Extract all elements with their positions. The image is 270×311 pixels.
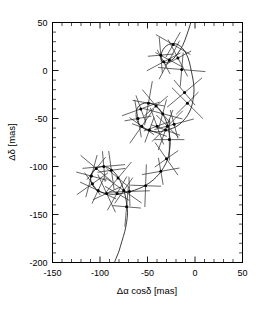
data-point bbox=[97, 189, 100, 192]
data-point bbox=[140, 125, 143, 128]
y-tick-label: 0 bbox=[42, 66, 47, 76]
data-point bbox=[90, 175, 93, 178]
data-point bbox=[156, 125, 159, 128]
data-point bbox=[168, 138, 171, 141]
x-tick-label: -100 bbox=[91, 268, 109, 278]
data-point bbox=[128, 190, 131, 193]
y-axis-title: Δδ [mas] bbox=[6, 123, 17, 161]
data-point bbox=[162, 60, 165, 63]
data-point bbox=[176, 57, 179, 60]
data-point bbox=[102, 165, 105, 168]
y-tick-labels: 500-50-100-150-200 bbox=[29, 18, 47, 268]
x-tick-label: -150 bbox=[43, 268, 61, 278]
x-tick-label: 50 bbox=[237, 268, 247, 278]
plot-canvas: -150-100-50050 500-50-100-150-200 Δα cos… bbox=[0, 0, 270, 311]
data-point bbox=[172, 43, 175, 46]
data-point bbox=[155, 105, 158, 108]
y-tick-label: -150 bbox=[29, 210, 47, 220]
error-bars bbox=[76, 32, 205, 227]
data-point bbox=[91, 182, 94, 185]
data-point bbox=[186, 102, 189, 105]
data-point bbox=[117, 177, 120, 180]
y-tick-label: -50 bbox=[34, 114, 47, 124]
y-tick-label: -200 bbox=[29, 258, 47, 268]
data-point bbox=[164, 129, 167, 132]
x-tick-label: -50 bbox=[141, 268, 154, 278]
data-point bbox=[166, 125, 169, 128]
data-point bbox=[95, 167, 98, 170]
data-point bbox=[183, 91, 186, 94]
data-point bbox=[159, 54, 162, 57]
x-axis-title: Δα cosδ [mas] bbox=[117, 285, 177, 296]
y-tick-label: 50 bbox=[37, 18, 47, 28]
data-point bbox=[161, 112, 164, 115]
data-point bbox=[105, 192, 108, 195]
data-point bbox=[122, 189, 125, 192]
data-point bbox=[116, 192, 119, 195]
data-point bbox=[173, 123, 176, 126]
x-tick-label: 0 bbox=[192, 268, 197, 278]
data-point bbox=[165, 157, 168, 160]
data-point bbox=[148, 129, 151, 132]
data-point bbox=[180, 68, 183, 71]
axis-frame bbox=[53, 23, 243, 263]
astrometric-orbit-figure: -150-100-50050 500-50-100-150-200 Δα cos… bbox=[0, 0, 270, 311]
data-point bbox=[137, 117, 140, 120]
y-tick-label: -100 bbox=[29, 162, 47, 172]
data-point bbox=[144, 184, 147, 187]
x-tick-labels: -150-100-50050 bbox=[43, 268, 247, 278]
data-point bbox=[168, 58, 171, 61]
data-point bbox=[125, 205, 128, 208]
data-point bbox=[139, 107, 142, 110]
data-point bbox=[110, 169, 113, 172]
data-point bbox=[159, 170, 162, 173]
axis-ticks bbox=[53, 23, 243, 263]
data-point bbox=[147, 102, 150, 105]
